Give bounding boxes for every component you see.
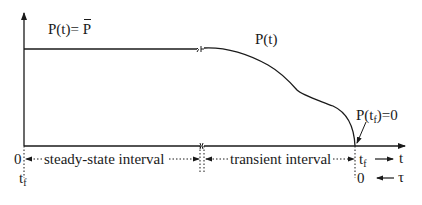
transient-interval-label: transient interval xyxy=(230,152,331,167)
steady-state-formula: P(t)= P xyxy=(48,22,91,37)
origin-tf-sub: f xyxy=(23,177,26,188)
curve-break-mark xyxy=(197,46,204,52)
terminal-suffix: )=0 xyxy=(377,107,398,123)
transient-curve xyxy=(204,48,355,146)
p-bar-symbol: P xyxy=(83,22,91,37)
origin-label: 0 xyxy=(14,152,22,167)
t-axis-label: t xyxy=(399,151,403,166)
curve-label: P(t) xyxy=(255,32,278,47)
terminal-prefix: P(t xyxy=(356,107,374,123)
terminal-condition-label: P(tf)=0 xyxy=(356,108,398,125)
tau-axis-label: τ xyxy=(398,170,404,185)
end-zero-label: 0 xyxy=(357,171,365,186)
origin-tf-label: tf xyxy=(19,171,27,188)
steady-state-interval-label: steady-state interval xyxy=(44,152,164,167)
end-tf-label: tf xyxy=(359,152,367,169)
end-tf-sub: f xyxy=(363,158,366,169)
terminal-pointer-arrow xyxy=(357,122,366,143)
formula-prefix: P(t)= xyxy=(48,21,83,37)
